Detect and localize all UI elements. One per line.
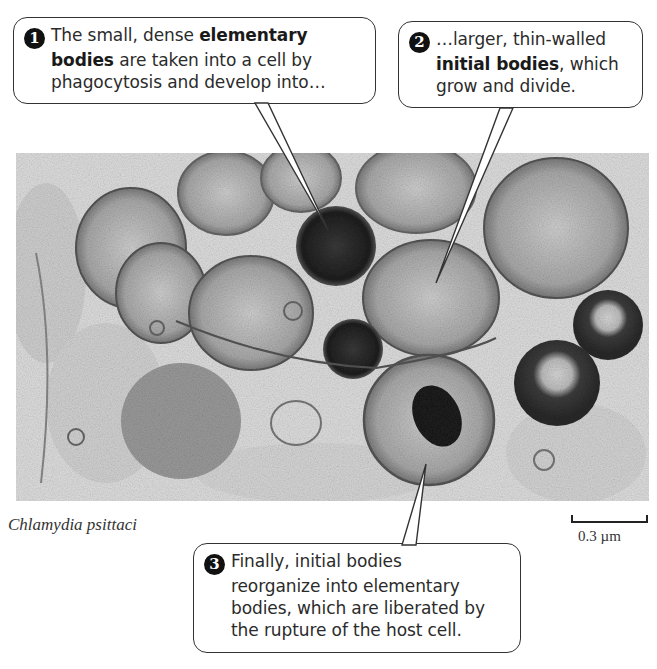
callout-2: 2…larger, thin-walled initial bodies, wh… <box>398 21 643 108</box>
callout-3-line-3: bodies, which are liberated by <box>204 597 510 619</box>
callout-3: 3Finally, initial bodies reorganize into… <box>193 543 521 653</box>
micrograph-image <box>16 153 649 501</box>
callout-1: 1The small, dense elementary bodies are … <box>13 17 376 104</box>
callout-3-line-2: reorganize into elementary <box>204 575 510 597</box>
step-number-badge: 3 <box>204 554 225 575</box>
scale-bar-line <box>571 515 648 523</box>
callout-2-line-3: grow and divide. <box>409 75 632 97</box>
callout-1-line-3: phagocytosis and develop into… <box>24 71 365 93</box>
step-number-badge: 1 <box>24 28 45 49</box>
callout-3-line-4: the rupture of the host cell. <box>204 619 510 641</box>
term-elementary-bodies: elementary <box>199 25 307 45</box>
electron-micrograph <box>16 153 649 501</box>
scale-bar <box>571 515 646 525</box>
step-number-badge: 2 <box>409 32 430 53</box>
callout-2-line-2: initial bodies, which <box>409 53 632 75</box>
callout-2-line-1: 2…larger, thin-walled <box>409 28 632 53</box>
callout-1-line-1: 1The small, dense elementary <box>24 24 365 49</box>
scale-bar-label: 0.3 µm <box>578 528 621 545</box>
term-initial-bodies: initial bodies <box>436 54 559 74</box>
figure-caption: Chlamydia psittaci <box>8 515 137 535</box>
callout-3-line-1: 3Finally, initial bodies <box>204 550 510 575</box>
callout-1-line-2: bodies are taken into a cell by <box>24 49 365 71</box>
